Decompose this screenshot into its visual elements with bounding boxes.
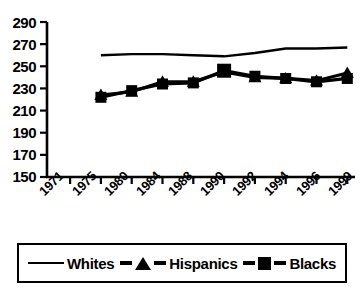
legend-line-left bbox=[120, 261, 132, 265]
legend-label: Whites bbox=[67, 255, 114, 272]
legend-line-right bbox=[274, 261, 286, 265]
y-tick-label: 230 bbox=[2, 81, 36, 96]
triangle-marker-icon bbox=[135, 257, 151, 270]
legend-item-blacks: Blacks bbox=[243, 255, 336, 272]
legend-label: Hispanics bbox=[169, 255, 237, 272]
plot-svg bbox=[0, 0, 364, 240]
line-marker-icon bbox=[28, 262, 64, 265]
y-tick-label: 250 bbox=[2, 59, 36, 74]
y-tick-label: 210 bbox=[2, 103, 36, 118]
legend-line-left bbox=[243, 261, 255, 265]
y-tick-label: 190 bbox=[2, 125, 36, 140]
square-marker-icon bbox=[258, 257, 271, 270]
y-tick-label: 150 bbox=[2, 169, 36, 184]
legend-label: Blacks bbox=[289, 255, 336, 272]
chart-legend: Whites Hispanics Blacks bbox=[17, 243, 347, 283]
legend-item-whites: Whites bbox=[28, 255, 114, 272]
legend-line-right bbox=[154, 261, 166, 265]
plot-area: 290 270 250 230 210 190 170 150 1971 197… bbox=[0, 0, 364, 240]
chart-container: 290 270 250 230 210 190 170 150 1971 197… bbox=[0, 0, 364, 292]
legend-item-hispanics: Hispanics bbox=[120, 255, 237, 272]
y-tick-label: 290 bbox=[2, 15, 36, 30]
y-tick-label: 170 bbox=[2, 147, 36, 162]
y-tick-label: 270 bbox=[2, 37, 36, 52]
